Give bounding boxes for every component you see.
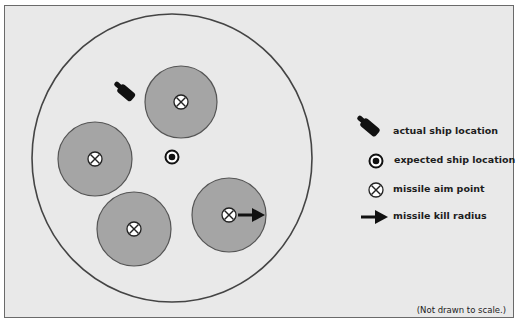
kill-zone-right [192, 178, 266, 252]
legend-item-kill-radius: missile kill radius [393, 210, 487, 221]
legend-label: missile kill radius [393, 210, 487, 221]
legend-label: expected ship location [394, 154, 515, 165]
aim-point-icon [174, 95, 188, 109]
kill-zone-left [58, 122, 132, 196]
aim-point-icon [127, 222, 141, 236]
footnote: (Not drawn to scale.) [417, 305, 506, 315]
actual-ship-icon [111, 79, 136, 102]
legend-item-expected-ship: expected ship location [394, 154, 515, 165]
legend-target-dot-icon [370, 155, 383, 168]
legend-item-aim-point: missile aim point [393, 183, 485, 194]
legend-arrow-right-icon [361, 210, 388, 224]
legend-label: missile aim point [393, 183, 485, 194]
kill-zone-top [145, 66, 217, 138]
aim-point-icon [222, 208, 236, 222]
legend-crossed-circle-icon [369, 183, 383, 197]
legend-label: actual ship location [393, 125, 498, 136]
kill-zone-bottom [97, 192, 171, 266]
expected-ship-icon [166, 151, 179, 164]
legend-ship-icon [354, 113, 380, 137]
aim-point-icon [88, 152, 102, 166]
legend-item-actual-ship: actual ship location [393, 125, 498, 136]
